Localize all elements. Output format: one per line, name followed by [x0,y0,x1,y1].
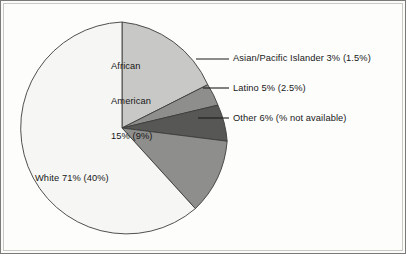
slice-label-african-american: African American 15% (9%) [111,38,179,166]
slice-label-asian-pacific-islander: Asian/Pacific Islander 3% (1.5%) [233,53,398,65]
slice-label-other: Other 6% (% not available) [233,113,398,125]
slice-label-african-american-line1: African [111,61,179,73]
pie-chart-figure: African American 15% (9%) White 71% (40%… [0,0,406,254]
slice-label-african-american-line3: 15% (9%) [111,131,179,143]
slice-label-white: White 71% (40%) [35,173,145,185]
pie-chart-canvas [0,0,406,254]
slice-label-african-american-line2: American [111,96,179,108]
slice-label-latino: Latino 5% (2.5%) [233,83,363,95]
